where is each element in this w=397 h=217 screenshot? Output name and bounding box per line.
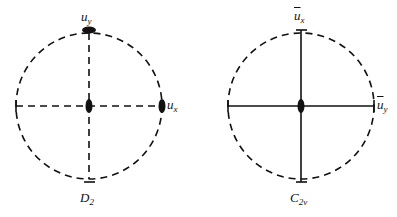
d2-projection bbox=[16, 27, 166, 183]
c2v-center-twofold-axis-icon bbox=[298, 99, 305, 113]
d2-center-twofold-axis-icon bbox=[86, 99, 93, 113]
d2-label-right-sub: x bbox=[174, 104, 178, 114]
d2-group-label-sub: 2 bbox=[89, 197, 94, 207]
d2-right-twofold-axis-icon bbox=[159, 99, 166, 113]
d2-label-top: uy bbox=[81, 10, 92, 26]
d2-label-right: ux bbox=[167, 98, 178, 114]
c2v-label-right: uy bbox=[377, 98, 388, 114]
d2-group-label: D2 bbox=[80, 191, 94, 207]
d2-group-label-base: D bbox=[80, 190, 89, 205]
c2v-label-top: ux bbox=[294, 9, 305, 25]
c2v-group-label: C2v bbox=[290, 191, 307, 207]
d2-label-top-sub: y bbox=[88, 16, 92, 26]
stereographic-projections bbox=[0, 0, 397, 217]
d2-top-twofold-axis-icon bbox=[82, 27, 96, 34]
c2v-label-right-sub: y bbox=[384, 104, 388, 114]
c2v-projection bbox=[228, 30, 374, 182]
c2v-group-label-sub: 2v bbox=[299, 197, 308, 207]
c2v-group-label-base: C bbox=[290, 190, 299, 205]
c2v-label-top-sub: x bbox=[301, 15, 305, 25]
